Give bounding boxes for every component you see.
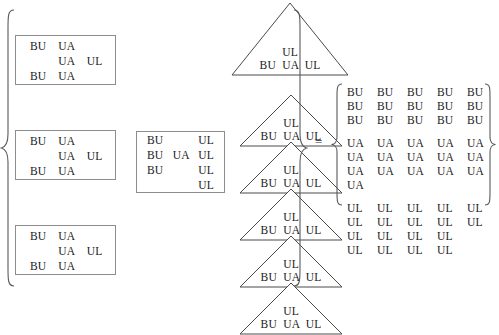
left-box-2-row-2: UA UL <box>30 148 115 163</box>
matrix-cell: UL <box>407 244 437 256</box>
middle-box-1-row-2: BU UA UL <box>147 147 224 162</box>
matrix-cell: UL <box>347 244 377 256</box>
matrix-cell: BU <box>347 114 377 126</box>
cell: UA <box>58 164 86 176</box>
equals-sign: = <box>315 134 322 150</box>
matrix-block-ua: UA UA UA UA UA UA UA UA UA UA UA UA UA U… <box>347 136 497 192</box>
cell: BU <box>30 259 58 271</box>
matrix-cell: UL <box>467 216 497 228</box>
result-matrix: BU BU BU BU BU BU BU BU BU BU BU BU BU B… <box>347 85 497 257</box>
matrix-row: UL UL UL UL UL <box>347 215 497 229</box>
cell: UL <box>87 244 115 256</box>
triangle-6: UL BU UA UL <box>232 261 350 335</box>
matrix-cell: UL <box>407 202 437 214</box>
matrix-row: BU BU BU BU BU <box>347 85 497 99</box>
matrix-row: BU BU BU BU BU <box>347 113 497 127</box>
matrix-row: UL UL UL UL <box>347 243 497 257</box>
left-box-2-row-3: BU UA <box>30 163 115 178</box>
cell: UA <box>58 244 86 256</box>
matrix-row: UL UL UL UL UL <box>347 201 497 215</box>
matrix-cell: UL <box>377 230 407 242</box>
cell: UA <box>58 259 86 271</box>
matrix-cell: UL <box>347 230 377 242</box>
cell: UA <box>173 149 199 161</box>
left-box-1-row-3: BU UA <box>30 68 115 83</box>
middle-box-1: BU UL BU UA UL BU UL UL <box>136 131 225 193</box>
matrix-row: UA <box>347 178 497 192</box>
matrix-cell: BU <box>437 100 467 112</box>
matrix-row: UA UA UA UA UA <box>347 136 497 150</box>
cell: UA <box>58 134 86 146</box>
matrix-left-brace <box>330 82 344 207</box>
matrix-cell: UA <box>347 179 377 191</box>
cell: UA <box>58 69 86 81</box>
matrix-cell: BU <box>407 86 437 98</box>
matrix-cell: BU <box>347 100 377 112</box>
triangle-1: UL BU UA UL <box>231 2 349 76</box>
matrix-cell: UA <box>347 165 377 177</box>
triangle-6-line-2: BU UA UL <box>232 318 350 331</box>
matrix-cell: BU <box>347 86 377 98</box>
cell: BU <box>30 164 58 176</box>
left-box-3-row-1: BU UA <box>30 228 115 243</box>
left-box-3-row-2: UA UL <box>30 243 115 258</box>
matrix-row: BU BU BU BU BU <box>347 99 497 113</box>
matrix-cell: UL <box>437 216 467 228</box>
triangle-1-line-2: BU UA UL <box>231 59 349 72</box>
left-box-3-row-3: BU UA <box>30 258 115 273</box>
cell: BU <box>147 134 173 146</box>
matrix-cell: UL <box>437 230 467 242</box>
matrix-cell: UL <box>347 216 377 228</box>
matrix-block-bu: BU BU BU BU BU BU BU BU BU BU BU BU BU B… <box>347 85 497 127</box>
triangle-1-text: UL BU UA UL <box>231 46 349 72</box>
middle-box-1-grid: BU UL BU UA UL BU UL UL <box>137 132 224 192</box>
left-box-1-grid: BU UA UA UL BU UA <box>16 38 115 83</box>
matrix-cell: BU <box>377 114 407 126</box>
cell: UL <box>87 54 115 66</box>
matrix-cell: UA <box>377 137 407 149</box>
matrix-cell: BU <box>437 86 467 98</box>
matrix-cell: UA <box>377 165 407 177</box>
middle-box-1-row-1: BU UL <box>147 132 224 147</box>
left-box-1-row-2: UA UL <box>30 53 115 68</box>
matrix-cell: BU <box>377 86 407 98</box>
cell: UL <box>198 164 224 176</box>
cell: UA <box>58 149 86 161</box>
matrix-cell: UL <box>377 202 407 214</box>
cell: BU <box>30 39 58 51</box>
triangle-1-line-1: UL <box>231 46 349 59</box>
matrix-cell: UL <box>407 230 437 242</box>
cell: BU <box>30 229 58 241</box>
cell: UL <box>198 179 224 191</box>
cell: BU <box>147 164 173 176</box>
matrix-cell: UL <box>437 244 467 256</box>
matrix-cell: BU <box>407 114 437 126</box>
cell: BU <box>147 149 173 161</box>
matrix-cell: UA <box>407 165 437 177</box>
left-box-2-row-1: BU UA <box>30 133 115 148</box>
matrix-cell: UA <box>347 151 377 163</box>
matrix-cell: UA <box>407 137 437 149</box>
matrix-cell: UA <box>437 137 467 149</box>
matrix-block-ul: UL UL UL UL UL UL UL UL UL UL UL UL UL U… <box>347 201 497 257</box>
matrix-row: UA UA UA UA UA <box>347 164 497 178</box>
cell: BU <box>30 134 58 146</box>
matrix-cell: UL <box>347 202 377 214</box>
left-box-1: BU UA UA UL BU UA <box>15 35 116 85</box>
triangles-right-brace <box>292 8 308 288</box>
matrix-cell: UL <box>407 216 437 228</box>
matrix-cell: UA <box>437 151 467 163</box>
cell: UL <box>87 149 115 161</box>
matrix-cell: UL <box>377 216 407 228</box>
matrix-right-brace <box>483 82 497 207</box>
matrix-row: UA UA UA UA UA <box>347 150 497 164</box>
cell: UL <box>198 134 224 146</box>
left-box-3-grid: BU UA UA UL BU UA <box>16 228 115 273</box>
matrix-cell: UA <box>347 137 377 149</box>
middle-box-1-row-4: UL <box>147 177 224 192</box>
middle-box-1-row-3: BU UL <box>147 162 224 177</box>
matrix-cell: BU <box>377 100 407 112</box>
matrix-cell: UA <box>407 151 437 163</box>
left-box-2-grid: BU UA UA UL BU UA <box>16 133 115 178</box>
